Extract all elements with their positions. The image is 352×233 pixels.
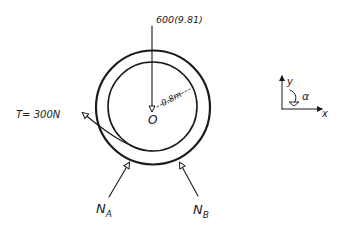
normal-a-label: NA xyxy=(96,201,112,219)
weight-label: 600(9.81) xyxy=(156,14,203,25)
normal-force-a: NA xyxy=(96,163,129,219)
normal-a-subscript: A xyxy=(105,209,112,219)
normal-b-symbol: N xyxy=(193,202,203,217)
normal-b-arrow xyxy=(180,163,198,196)
normal-a-arrow xyxy=(109,163,129,197)
tension-label: T= 300N xyxy=(16,109,61,120)
tension-arrow xyxy=(83,113,152,151)
ring-body xyxy=(96,51,210,165)
center-label: O xyxy=(148,113,157,127)
radius-dimension: 0.8m xyxy=(157,89,190,108)
normal-a-symbol: N xyxy=(96,201,106,216)
angular-label: α xyxy=(302,90,310,103)
normal-b-label: NB xyxy=(193,202,209,220)
normal-b-subscript: B xyxy=(203,210,209,220)
normal-force-b: NB xyxy=(180,163,209,220)
y-axis-label: y xyxy=(286,76,294,87)
outer-circle xyxy=(96,51,210,165)
angular-arrowhead-icon xyxy=(289,102,299,106)
free-body-diagram: O 0.8m 600(9.81) T= 300N NA NB y x α xyxy=(0,0,352,233)
tension-force: T= 300N xyxy=(16,109,152,151)
coordinate-axes: y x α xyxy=(282,76,328,119)
x-axis-label: x xyxy=(321,108,328,119)
center-point: O xyxy=(148,113,157,127)
radius-label: 0.8m xyxy=(159,89,183,108)
